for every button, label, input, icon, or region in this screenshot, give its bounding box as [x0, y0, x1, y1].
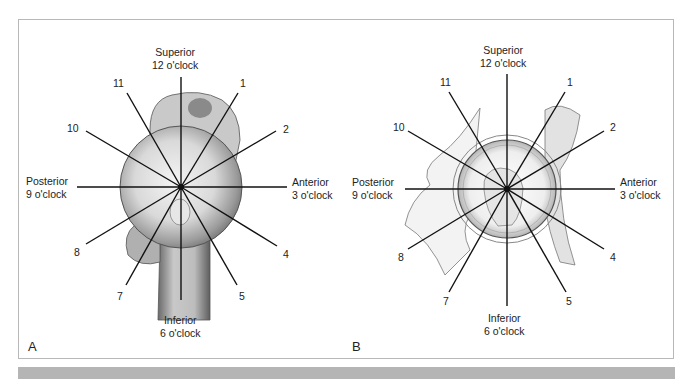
label-anterior-a: Anterior 3 o'clock [292, 176, 333, 202]
label-anterior-b: Anterior 3 o'clock [620, 176, 661, 202]
label-inferior-b: Inferior 6 o'clock [484, 312, 525, 338]
label-superior-b: Superior 12 o'clock [480, 44, 526, 70]
socket-illustration [405, 106, 580, 275]
hour-10-b: 10 [393, 121, 405, 133]
panel-letter-b: B [352, 339, 361, 354]
hour-7-b: 7 [443, 295, 449, 307]
diagram-canvas [0, 0, 690, 379]
hour-5-b: 5 [566, 295, 572, 307]
label-posterior-a: Posterior 9 o'clock [26, 175, 68, 201]
label-posterior-b: Posterior 9 o'clock [352, 176, 394, 202]
hour-7-a: 7 [117, 290, 123, 302]
hour-2-a: 2 [283, 123, 289, 135]
hour-10-a: 10 [67, 122, 79, 134]
hour-5-a: 5 [239, 290, 245, 302]
hour-1-a: 1 [240, 77, 246, 89]
hour-4-b: 4 [610, 251, 616, 263]
hour-4-a: 4 [283, 248, 289, 260]
label-inferior-a: Inferior 6 o'clock [160, 314, 201, 340]
center-point-a [178, 184, 184, 190]
hour-11-a: 11 [113, 77, 124, 89]
center-point-b [504, 186, 510, 192]
label-superior-a: Superior 12 o'clock [152, 46, 198, 72]
hour-11-b: 11 [440, 76, 451, 88]
hour-8-a: 8 [74, 246, 80, 258]
hour-8-b: 8 [398, 251, 404, 263]
hour-2-b: 2 [610, 121, 616, 133]
panel-letter-a: A [28, 339, 37, 354]
hour-1-b: 1 [567, 76, 573, 88]
